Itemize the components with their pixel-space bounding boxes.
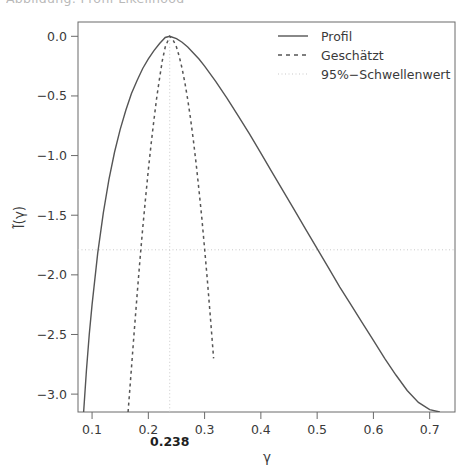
y-axis-ticks	[71, 36, 78, 394]
x-tick-label: 0.7	[420, 422, 440, 437]
chart-legend: ProfilGeschätzt95%−Schwellenwert	[278, 29, 451, 82]
y-tick-label: −1.5	[37, 208, 67, 223]
x-tick-label: 0.1	[82, 422, 102, 437]
y-axis-title: l̃(γ)	[11, 206, 27, 229]
series-line-profil	[84, 36, 440, 412]
x-tick-label: 0.4	[251, 422, 271, 437]
series-line-geschaetzt	[128, 36, 214, 412]
x-axis-ticks	[92, 412, 430, 419]
y-tick-label: −1.0	[37, 148, 67, 163]
y-tick-label: −2.0	[37, 267, 67, 282]
legend-label-3: 95%−Schwellenwert	[321, 67, 451, 82]
y-tick-label: −2.5	[37, 327, 67, 342]
y-tick-label: 0.0	[47, 29, 67, 44]
legend-label-1: Profil	[321, 29, 352, 44]
mle-estimate-annotation: 0.238	[150, 434, 190, 449]
x-axis-title: γ	[263, 449, 271, 465]
y-tick-label: −0.5	[37, 88, 67, 103]
chart-canvas: 0.0−0.5−1.0−1.5−2.0−2.5−3.0 0.10.20.30.4…	[0, 0, 467, 475]
legend-label-2: Geschätzt	[321, 48, 384, 63]
y-tick-label: −3.0	[37, 387, 67, 402]
profile-likelihood-figure: Abbildung: Profil-Likelihood 0.0−0.5−1.0…	[0, 0, 467, 475]
x-tick-label: 0.3	[195, 422, 215, 437]
x-tick-label: 0.6	[363, 422, 383, 437]
x-tick-label: 0.5	[307, 422, 327, 437]
clipped-caption-text: Abbildung: Profil-Likelihood	[6, 0, 306, 7]
y-axis-tick-labels: 0.0−0.5−1.0−1.5−2.0−2.5−3.0	[37, 29, 67, 402]
x-axis-tick-labels: 0.10.20.30.40.50.60.7	[82, 422, 440, 437]
